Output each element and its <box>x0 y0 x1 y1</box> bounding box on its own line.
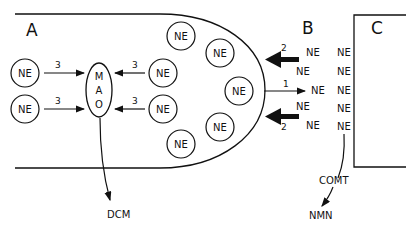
svg-text:M: M <box>95 71 104 82</box>
mao-enzyme: M A O <box>86 63 112 117</box>
svg-text:NE: NE <box>18 104 32 115</box>
vesicle-ne-3: NE <box>225 77 253 105</box>
cleft-ne: NE <box>311 85 325 96</box>
region-a-label: A <box>26 20 38 40</box>
svg-text:NE: NE <box>213 122 227 133</box>
svg-text:NE: NE <box>18 68 32 79</box>
svg-text:NE: NE <box>156 104 170 115</box>
mao-to-dcm-arrow <box>100 118 110 200</box>
cleft-ne: NE <box>296 66 310 77</box>
cleft-ne: NE <box>337 121 351 132</box>
svg-text:NE: NE <box>174 31 188 42</box>
reuptake-arrow-top-label: 2 <box>281 43 287 53</box>
arrow-label-3: 3 <box>132 60 138 70</box>
comt-to-nmn-arrow <box>322 187 333 206</box>
region-b-label: B <box>302 18 314 38</box>
dcm-label: DCM <box>107 209 130 220</box>
norepinephrine-synapse-diagram: A B C M A O NE NE NE NE 3 3 3 3 DCM NE <box>0 0 419 231</box>
cleft-ne: NE <box>337 66 351 77</box>
svg-text:A: A <box>96 85 103 96</box>
cleft-ne: NE <box>337 103 351 114</box>
comt-pathway-arrow <box>338 134 344 178</box>
cytoplasm-ne-left-top: NE <box>11 59 39 87</box>
comt-label: COMT <box>319 175 349 186</box>
nmn-label: NMN <box>309 210 333 221</box>
presynaptic-terminal-outline <box>15 14 265 168</box>
reuptake-arrow-top <box>265 51 299 68</box>
svg-text:NE: NE <box>156 68 170 79</box>
svg-text:O: O <box>95 99 103 110</box>
cleft-ne: NE <box>337 85 351 96</box>
region-c-label: C <box>371 18 383 38</box>
arrow-label-3: 3 <box>55 96 61 106</box>
cytoplasm-ne-right-bottom: NE <box>149 95 177 123</box>
svg-text:NE: NE <box>213 48 227 59</box>
release-arrow-label: 1 <box>283 79 289 89</box>
vesicle-ne-1: NE <box>167 22 195 50</box>
cytoplasm-ne-right-top: NE <box>149 59 177 87</box>
vesicle-ne-5: NE <box>167 130 195 158</box>
svg-text:NE: NE <box>174 139 188 150</box>
vesicle-ne-4: NE <box>206 113 234 141</box>
reuptake-arrow-bottom-label: 2 <box>281 122 287 132</box>
cytoplasm-ne-left-bottom: NE <box>11 95 39 123</box>
svg-text:NE: NE <box>232 86 246 97</box>
cleft-ne: NE <box>306 47 320 58</box>
cleft-ne: NE <box>306 120 320 131</box>
arrow-label-3: 3 <box>132 96 138 106</box>
cleft-ne: NE <box>337 47 351 58</box>
vesicle-ne-2: NE <box>206 39 234 67</box>
arrow-label-3: 3 <box>55 60 61 70</box>
cleft-ne: NE <box>296 101 310 112</box>
